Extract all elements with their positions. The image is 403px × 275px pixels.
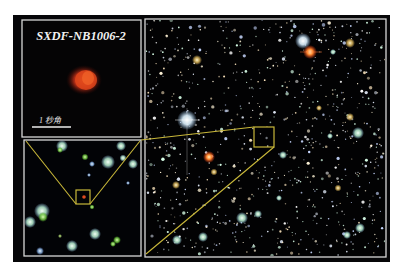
main-field-panel bbox=[141, 19, 386, 257]
inset-top-panel: SXDF-NB1006-2 1 秒角 bbox=[22, 20, 141, 137]
inset-bottom-panel bbox=[24, 140, 141, 256]
deep-field-figure: SXDF-NB1006-2 1 秒角 bbox=[0, 0, 403, 275]
object-title: SXDF-NB1006-2 bbox=[36, 29, 126, 43]
scale-bar-label: 1 秒角 bbox=[39, 116, 62, 125]
